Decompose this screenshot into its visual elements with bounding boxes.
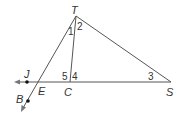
label-C: C: [64, 86, 72, 98]
point-B-dot: [26, 99, 30, 103]
label-J: J: [23, 68, 30, 80]
angle-5-label: 5: [62, 71, 68, 82]
label-S: S: [166, 86, 174, 98]
diagram-canvas: T S C E J B 1 2 3 4 5: [0, 0, 184, 122]
ray-arrowhead-down: [21, 105, 26, 112]
angle-4-label: 4: [72, 71, 78, 82]
angle-1-label: 1: [68, 26, 74, 37]
label-B: B: [16, 93, 23, 105]
point-J-dot: [25, 80, 29, 84]
label-E: E: [38, 85, 46, 97]
angle-2-label: 2: [77, 21, 83, 32]
label-T: T: [71, 4, 79, 16]
ray-arrowhead-left: [14, 80, 20, 85]
angle-3-label: 3: [148, 71, 154, 82]
geometry-diagram: T S C E J B 1 2 3 4 5: [0, 0, 184, 122]
segment-TS: [76, 16, 171, 82]
